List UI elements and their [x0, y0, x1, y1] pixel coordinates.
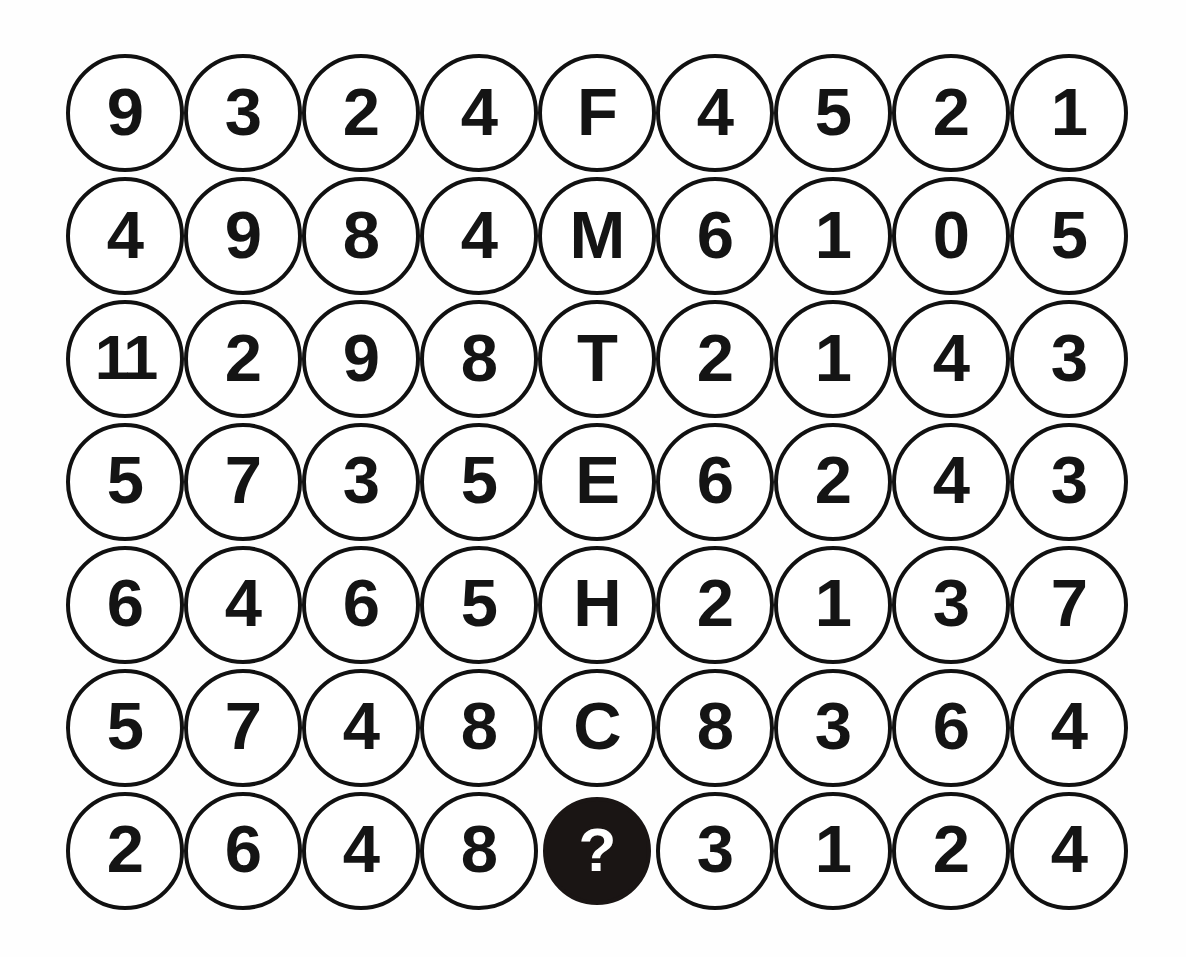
value-circle[interactable]: 4: [1010, 669, 1128, 787]
value-circle[interactable]: 2: [656, 300, 774, 418]
value-circle[interactable]: 5: [66, 669, 184, 787]
grid-cell[interactable]: 5: [774, 52, 892, 175]
grid-cell[interactable]: 4: [420, 52, 538, 175]
value-circle[interactable]: 1: [774, 792, 892, 910]
value-circle[interactable]: 6: [656, 177, 774, 295]
value-circle[interactable]: 4: [420, 54, 538, 172]
grid-cell[interactable]: 6: [302, 543, 420, 666]
value-circle[interactable]: 4: [184, 546, 302, 664]
grid-cell[interactable]: 4: [66, 175, 184, 298]
value-circle[interactable]: 1: [774, 300, 892, 418]
value-circle[interactable]: 8: [656, 669, 774, 787]
value-circle[interactable]: 5: [1010, 177, 1128, 295]
value-circle[interactable]: 3: [1010, 300, 1128, 418]
grid-cell[interactable]: 5: [420, 421, 538, 544]
value-circle[interactable]: 7: [184, 669, 302, 787]
grid-cell[interactable]: 11: [66, 298, 184, 421]
grid-cell[interactable]: 5: [420, 543, 538, 666]
grid-cell[interactable]: 1: [774, 298, 892, 421]
value-circle[interactable]: 6: [892, 669, 1010, 787]
value-circle[interactable]: 2: [66, 792, 184, 910]
grid-cell[interactable]: 3: [184, 52, 302, 175]
grid-cell[interactable]: 3: [892, 543, 1010, 666]
value-circle[interactable]: 9: [184, 177, 302, 295]
value-circle[interactable]: 2: [774, 423, 892, 541]
grid-cell[interactable]: 9: [66, 52, 184, 175]
grid-cell[interactable]: 4: [892, 298, 1010, 421]
grid-cell[interactable]: ?: [538, 789, 656, 912]
value-circle[interactable]: 3: [184, 54, 302, 172]
value-circle[interactable]: 5: [774, 54, 892, 172]
grid-cell[interactable]: 4: [1010, 789, 1128, 912]
grid-cell[interactable]: F: [538, 52, 656, 175]
value-circle[interactable]: 4: [420, 177, 538, 295]
value-circle[interactable]: 6: [656, 423, 774, 541]
grid-cell[interactable]: 3: [774, 666, 892, 789]
value-circle[interactable]: T: [538, 300, 656, 418]
grid-cell[interactable]: 3: [1010, 421, 1128, 544]
grid-cell[interactable]: 5: [66, 666, 184, 789]
grid-cell[interactable]: 2: [892, 789, 1010, 912]
value-circle[interactable]: 4: [892, 423, 1010, 541]
grid-cell[interactable]: 8: [420, 789, 538, 912]
value-circle[interactable]: 4: [302, 669, 420, 787]
value-circle[interactable]: 2: [656, 546, 774, 664]
grid-cell[interactable]: 8: [656, 666, 774, 789]
value-circle[interactable]: 3: [892, 546, 1010, 664]
grid-cell[interactable]: T: [538, 298, 656, 421]
value-circle[interactable]: 3: [656, 792, 774, 910]
value-circle[interactable]: 4: [66, 177, 184, 295]
grid-cell[interactable]: 4: [656, 52, 774, 175]
grid-cell[interactable]: 4: [420, 175, 538, 298]
value-circle[interactable]: 5: [66, 423, 184, 541]
grid-cell[interactable]: 1: [774, 543, 892, 666]
value-circle[interactable]: 1: [774, 177, 892, 295]
value-circle[interactable]: 7: [184, 423, 302, 541]
grid-cell[interactable]: 2: [302, 52, 420, 175]
grid-cell[interactable]: 0: [892, 175, 1010, 298]
value-circle[interactable]: 7: [1010, 546, 1128, 664]
value-circle[interactable]: 4: [302, 792, 420, 910]
value-circle[interactable]: H: [538, 546, 656, 664]
value-circle[interactable]: E: [538, 423, 656, 541]
value-circle[interactable]: 1: [1010, 54, 1128, 172]
grid-cell[interactable]: 6: [184, 789, 302, 912]
value-circle[interactable]: 5: [420, 423, 538, 541]
grid-cell[interactable]: 3: [302, 421, 420, 544]
grid-cell[interactable]: 9: [184, 175, 302, 298]
grid-cell[interactable]: 7: [184, 666, 302, 789]
value-circle[interactable]: 4: [1010, 792, 1128, 910]
grid-cell[interactable]: H: [538, 543, 656, 666]
value-circle[interactable]: 8: [420, 669, 538, 787]
grid-cell[interactable]: 1: [1010, 52, 1128, 175]
value-circle[interactable]: 3: [302, 423, 420, 541]
value-circle[interactable]: 6: [302, 546, 420, 664]
grid-cell[interactable]: 4: [302, 666, 420, 789]
grid-cell[interactable]: 5: [66, 421, 184, 544]
grid-cell[interactable]: 4: [184, 543, 302, 666]
value-circle[interactable]: 3: [1010, 423, 1128, 541]
grid-cell[interactable]: 3: [1010, 298, 1128, 421]
value-circle[interactable]: 2: [302, 54, 420, 172]
value-circle[interactable]: 6: [184, 792, 302, 910]
grid-cell[interactable]: E: [538, 421, 656, 544]
value-circle[interactable]: 4: [892, 300, 1010, 418]
value-circle[interactable]: C: [538, 669, 656, 787]
value-circle[interactable]: 0: [892, 177, 1010, 295]
grid-cell[interactable]: 9: [302, 298, 420, 421]
value-circle[interactable]: 1: [774, 546, 892, 664]
grid-cell[interactable]: 4: [302, 789, 420, 912]
grid-cell[interactable]: 7: [1010, 543, 1128, 666]
grid-cell[interactable]: 8: [302, 175, 420, 298]
value-circle[interactable]: 2: [892, 792, 1010, 910]
value-circle[interactable]: 5: [420, 546, 538, 664]
grid-cell[interactable]: 1: [774, 789, 892, 912]
missing-value-circle[interactable]: ?: [543, 797, 651, 905]
grid-cell[interactable]: C: [538, 666, 656, 789]
grid-cell[interactable]: 1: [774, 175, 892, 298]
grid-cell[interactable]: 2: [656, 543, 774, 666]
grid-cell[interactable]: 6: [892, 666, 1010, 789]
grid-cell[interactable]: 2: [66, 789, 184, 912]
grid-cell[interactable]: 2: [892, 52, 1010, 175]
grid-cell[interactable]: 6: [656, 421, 774, 544]
